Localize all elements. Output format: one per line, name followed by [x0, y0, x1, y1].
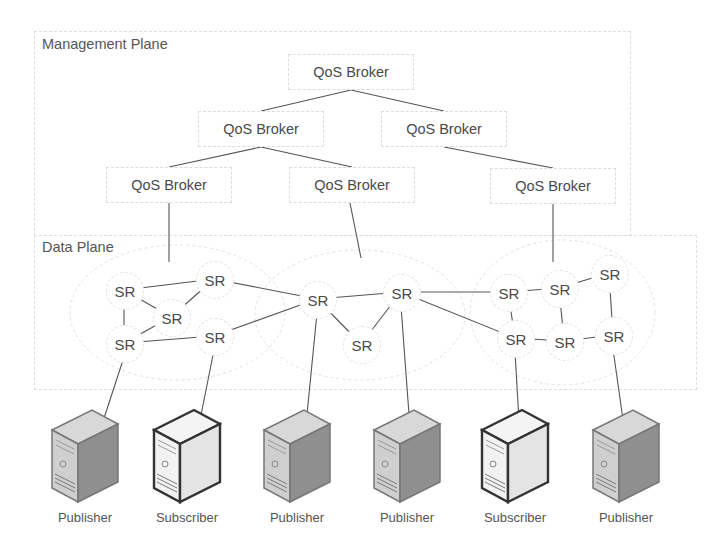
service-router-node: SR — [490, 274, 528, 312]
service-router-node: SR — [106, 325, 144, 363]
service-router-node: SR — [591, 255, 629, 293]
service-router-node: SR — [196, 318, 234, 356]
network-cloud — [470, 240, 655, 385]
server-icon — [591, 408, 661, 504]
connection-line — [351, 90, 444, 111]
qos-architecture-diagram: Management Plane Data Plane QoS BrokerQo… — [0, 0, 718, 559]
qos-broker-node: QoS Broker — [381, 111, 507, 147]
publisher-host: Publisher — [586, 408, 666, 525]
host-label: Publisher — [586, 510, 666, 525]
qos-broker-node: QoS Broker — [288, 54, 414, 90]
connection-line — [261, 147, 352, 167]
host-label: Publisher — [257, 510, 337, 525]
service-router-node: SR — [106, 272, 144, 310]
host-label: Subscriber — [147, 510, 227, 525]
qos-broker-node: QoS Broker — [289, 167, 415, 203]
server-icon — [262, 408, 332, 504]
publisher-host: Publisher — [367, 408, 447, 525]
connection-line — [261, 90, 351, 111]
server-icon — [152, 408, 222, 504]
qos-broker-node: QoS Broker — [198, 111, 324, 147]
host-label: Publisher — [367, 510, 447, 525]
service-router-node: SR — [546, 323, 584, 361]
service-router-node: SR — [299, 281, 337, 319]
service-router-node: SR — [595, 317, 633, 355]
publisher-host: Publisher — [257, 408, 337, 525]
service-router-node: SR — [497, 320, 535, 358]
host-label: Publisher — [45, 510, 125, 525]
server-icon — [372, 408, 442, 504]
server-icon — [480, 408, 550, 504]
service-router-node: SR — [343, 326, 381, 364]
service-router-node: SR — [383, 274, 421, 312]
service-router-node: SR — [196, 261, 234, 299]
subscriber-host: Subscriber — [147, 408, 227, 525]
publisher-host: Publisher — [45, 408, 125, 525]
host-label: Subscriber — [475, 510, 555, 525]
service-router-node: SR — [153, 299, 191, 337]
qos-broker-node: QoS Broker — [490, 168, 616, 204]
connection-line — [169, 147, 261, 167]
service-router-node: SR — [541, 270, 579, 308]
connection-line — [444, 147, 553, 168]
qos-broker-node: QoS Broker — [106, 167, 232, 203]
subscriber-host: Subscriber — [475, 408, 555, 525]
server-icon — [50, 408, 120, 504]
